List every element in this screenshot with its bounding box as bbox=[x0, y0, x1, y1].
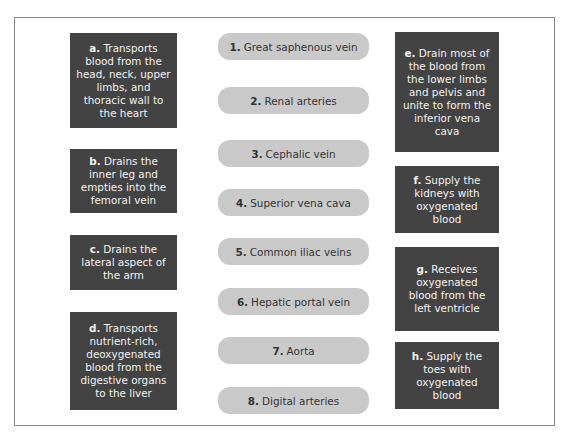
description-box-b: b. Drains the inner leg and empties into… bbox=[70, 149, 177, 213]
term-pill-7: 7.Aorta bbox=[218, 337, 369, 364]
description-box-d: d. Transports nutrient-rich, deoxygenate… bbox=[70, 312, 177, 410]
term-text: Superior vena cava bbox=[250, 197, 351, 209]
term-pill-1: 1.Great saphenous vein bbox=[218, 33, 369, 60]
description-letter: b. bbox=[89, 155, 100, 167]
term-text: Common iliac veins bbox=[250, 246, 352, 258]
term-number: 7. bbox=[272, 345, 283, 357]
description-box-c: c. Drains the lateral aspect of the arm bbox=[70, 235, 177, 290]
term-number: 6. bbox=[237, 296, 248, 308]
description-box-f: f. Supply the kidneys with oxygenated bl… bbox=[395, 166, 499, 233]
term-pill-2: 2.Renal arteries bbox=[218, 87, 369, 114]
description-box-h: h. Supply the toes with oxygenated blood bbox=[395, 342, 499, 409]
description-letter: a. bbox=[89, 42, 100, 54]
description-box-g: g. Receives oxygenated blood from the le… bbox=[395, 247, 499, 331]
term-pill-8: 8.Digital arteries bbox=[218, 387, 369, 414]
description-box-a: a. Transports blood from the head, neck,… bbox=[70, 33, 177, 128]
description-letter: g. bbox=[417, 263, 428, 275]
term-number: 4. bbox=[236, 197, 247, 209]
term-pill-6: 6.Hepatic portal vein bbox=[218, 288, 369, 315]
term-text: Aorta bbox=[287, 345, 315, 357]
term-number: 1. bbox=[229, 41, 240, 53]
description-text: Drain most of the blood from the lower l… bbox=[403, 47, 491, 137]
description-letter: d. bbox=[89, 322, 100, 334]
term-text: Digital arteries bbox=[262, 395, 339, 407]
term-number: 2. bbox=[250, 95, 261, 107]
term-text: Cephalic vein bbox=[266, 148, 336, 160]
term-text: Renal arteries bbox=[264, 95, 336, 107]
description-text: Supply the kidneys with oxygenated blood bbox=[414, 174, 480, 225]
term-number: 5. bbox=[236, 246, 247, 258]
description-letter: e. bbox=[404, 47, 415, 59]
term-number: 3. bbox=[251, 148, 262, 160]
description-letter: h. bbox=[412, 350, 423, 362]
term-pill-4: 4.Superior vena cava bbox=[218, 189, 369, 216]
term-text: Hepatic portal vein bbox=[251, 296, 350, 308]
description-text: Supply the toes with oxygenated blood bbox=[416, 350, 482, 401]
description-letter: c. bbox=[90, 243, 100, 255]
term-pill-3: 3.Cephalic vein bbox=[218, 140, 369, 167]
term-number: 8. bbox=[248, 395, 259, 407]
description-letter: f. bbox=[414, 174, 422, 186]
term-text: Great saphenous vein bbox=[244, 41, 358, 53]
term-pill-5: 5.Common iliac veins bbox=[218, 238, 369, 265]
description-box-e: e. Drain most of the blood from the lowe… bbox=[395, 32, 499, 152]
